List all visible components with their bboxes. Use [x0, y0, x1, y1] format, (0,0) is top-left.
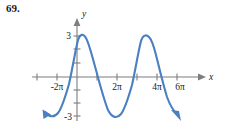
figure-panel: 69. — [0, 0, 234, 133]
y-axis-arrowhead — [74, 18, 81, 26]
x-tick-label-neg2pi: -2π — [51, 82, 64, 92]
graph-canvas: x y -2π 2π 4π 6π 3 -3 — [0, 0, 234, 133]
y-axis — [74, 18, 81, 121]
curve-right-arrowhead — [171, 110, 181, 121]
y-axis-label: y — [81, 9, 87, 19]
x-axis-arrowhead — [198, 74, 206, 81]
sinusoid-curve — [45, 35, 176, 117]
x-tick-label-6pi: 6π — [175, 82, 185, 92]
x-axis-label: x — [208, 72, 214, 82]
x-tick-label-2pi: 2π — [112, 82, 122, 92]
problem-number: 69. — [6, 2, 20, 14]
x-axis — [32, 74, 206, 81]
y-tick-label-3: 3 — [66, 31, 71, 41]
x-tick-label-4pi: 4π — [152, 82, 162, 92]
curve-left-arrowhead — [43, 110, 52, 120]
y-tick-label-neg3: -3 — [64, 112, 72, 122]
curve-group — [43, 35, 182, 121]
